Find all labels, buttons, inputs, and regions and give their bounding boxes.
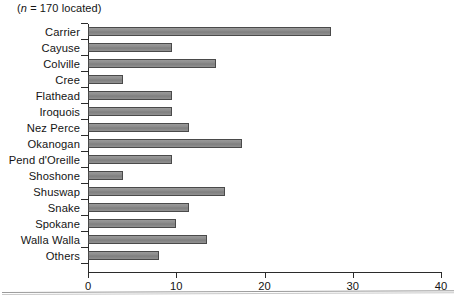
- category-label: Okanogan: [28, 136, 80, 152]
- bar: [88, 187, 225, 196]
- bar: [88, 251, 159, 260]
- y-axis-tick: [81, 183, 88, 184]
- bar: [88, 107, 172, 116]
- x-axis-tick: [441, 272, 442, 278]
- category-axis-labels: CarrierCayuseColvilleCreeFlatheadIroquoi…: [0, 24, 84, 271]
- category-label: Snake: [48, 200, 80, 216]
- bar: [88, 43, 172, 52]
- bar-series: [88, 24, 448, 272]
- category-label: Nez Perce: [27, 120, 80, 136]
- bar: [88, 219, 176, 228]
- category-label: Cayuse: [41, 40, 80, 56]
- y-axis-tick: [81, 23, 88, 24]
- category-label: Cree: [55, 72, 80, 88]
- y-axis-tick: [81, 151, 88, 152]
- bar: [88, 75, 123, 84]
- bar: [88, 91, 172, 100]
- bar: [88, 171, 123, 180]
- category-label: Spokane: [35, 216, 80, 232]
- y-axis-tick: [81, 247, 88, 248]
- category-label: Iroquois: [39, 104, 80, 120]
- x-axis-tick: [176, 272, 177, 278]
- x-axis-tick: [88, 272, 89, 278]
- y-axis-tick: [81, 55, 88, 56]
- bar-chart-figure: (n = 170 located) CarrierCayuseColvilleC…: [0, 0, 458, 308]
- bar: [88, 203, 189, 212]
- sample-size-note-value: = 170 located): [27, 2, 102, 14]
- y-axis-tick: [81, 135, 88, 136]
- y-axis-tick: [81, 39, 88, 40]
- y-axis-tick: [81, 87, 88, 88]
- category-label: Flathead: [36, 88, 80, 104]
- category-label: Others: [46, 248, 80, 264]
- bar: [88, 123, 189, 132]
- y-axis-tick: [81, 263, 88, 264]
- y-axis-tick: [81, 231, 88, 232]
- category-label: Shuswap: [33, 184, 80, 200]
- sample-size-note: (n = 170 located): [17, 2, 102, 15]
- y-axis-tick: [81, 119, 88, 120]
- bar: [88, 139, 242, 148]
- y-axis-tick: [81, 199, 88, 200]
- y-axis-tick: [81, 215, 88, 216]
- category-label: Colville: [43, 56, 80, 72]
- category-label: Walla Walla: [21, 232, 80, 248]
- y-axis-tick: [81, 167, 88, 168]
- bar: [88, 155, 172, 164]
- x-axis-tick: [265, 272, 266, 278]
- category-label: Shoshone: [29, 168, 80, 184]
- category-label: Carrier: [45, 24, 80, 40]
- category-label: Pend d'Oreille: [9, 152, 80, 168]
- bar: [88, 27, 331, 36]
- plot-area: CarrierCayuseColvilleCreeFlatheadIroquoi…: [0, 24, 458, 274]
- x-axis-tick: [353, 272, 354, 278]
- y-axis-tick: [81, 71, 88, 72]
- y-axis-tick: [81, 103, 88, 104]
- bar: [88, 59, 216, 68]
- bar: [88, 235, 207, 244]
